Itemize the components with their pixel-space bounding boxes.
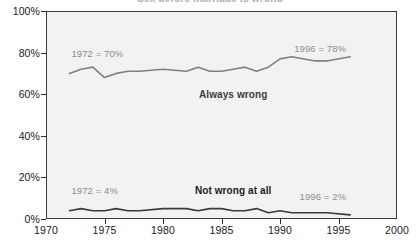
annotation-right-bottom: 1996 = 2% — [300, 191, 347, 202]
x-axis-ticks — [46, 219, 397, 225]
x-axis-tick-mark — [339, 219, 340, 224]
series-label-always-wrong: Always wrong — [199, 89, 267, 100]
x-axis-tick-mark — [222, 219, 223, 224]
x-axis-tick-mark — [280, 219, 281, 224]
x-axis-tick-label: 2000 — [385, 224, 409, 236]
x-axis-tick-mark — [163, 219, 164, 224]
x-axis-tick-label: 1970 — [34, 224, 58, 236]
series-label-not-wrong-at-all: Not wrong at all — [195, 184, 272, 195]
chart-title: Sex before marriage is wrong — [0, 0, 420, 2]
series-line-not-wrong-at-all — [69, 209, 350, 215]
annotation-left-top: 1972 = 70% — [71, 47, 123, 58]
x-axis-labels: 1970197519801985199019952000 — [46, 224, 397, 238]
x-axis-tick-mark — [105, 219, 106, 224]
x-axis-tick-label: 1995 — [327, 224, 351, 236]
chart-container: Sex before marriage is wrong 100%80%60%4… — [0, 0, 420, 244]
annotation-right-top: 1996 = 78% — [294, 43, 346, 54]
series-line-always-wrong — [69, 57, 350, 78]
x-axis-tick-label: 1980 — [151, 224, 175, 236]
y-axis-ticks — [0, 11, 46, 219]
annotation-left-bottom: 1972 = 4% — [71, 184, 118, 195]
x-axis-tick-label: 1985 — [210, 224, 234, 236]
x-axis-tick-label: 1990 — [268, 224, 292, 236]
x-axis-tick-label: 1975 — [93, 224, 117, 236]
